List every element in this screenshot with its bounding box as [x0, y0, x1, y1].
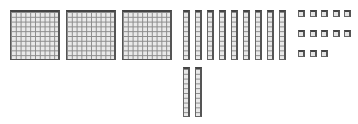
unit-cube	[333, 30, 340, 37]
tens-rod	[219, 10, 226, 60]
unit-cube	[344, 10, 351, 17]
unit-cube	[310, 30, 317, 37]
unit-cube	[321, 30, 328, 37]
unit-cube	[298, 30, 305, 37]
unit-cube	[344, 30, 351, 37]
unit-cube	[333, 10, 340, 17]
tens-rod	[195, 67, 202, 117]
unit-cube	[310, 50, 317, 57]
tens-rod	[279, 10, 286, 60]
tens-rod	[243, 10, 250, 60]
tens-rod	[195, 10, 202, 60]
tens-rod	[267, 10, 274, 60]
hundreds-flat	[10, 10, 60, 60]
unit-cube	[321, 50, 328, 57]
unit-cube	[298, 10, 305, 17]
tens-rod	[183, 67, 190, 117]
tens-rod	[255, 10, 262, 60]
hundreds-flat	[66, 10, 116, 60]
tens-rod	[231, 10, 238, 60]
unit-cube	[298, 50, 305, 57]
tens-rod	[183, 10, 190, 60]
unit-cube	[321, 10, 328, 17]
hundreds-flat	[122, 10, 172, 60]
unit-cube	[310, 10, 317, 17]
tens-rod	[207, 10, 214, 60]
